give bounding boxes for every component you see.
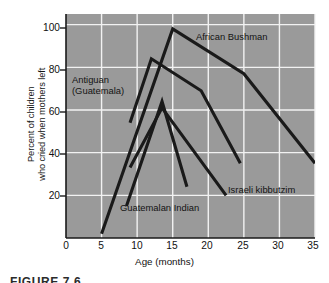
figure-container: Percent of children who cried when mothe…: [0, 0, 329, 283]
series-label-antiguan-line1: Antiguan: [72, 74, 109, 85]
series-label-israeli-kibbutzim: Israeli kibbutzim: [228, 184, 295, 195]
series-label-african-bushman: African Bushman: [196, 31, 267, 42]
chart-plot: African Bushman Antiguan (Guatemala) Isr…: [0, 0, 329, 283]
axis-tick-marks: [60, 28, 66, 196]
series-label-antiguan-line2: (Guatemala): [72, 85, 124, 96]
series-label-guatemalan-indian: Guatemalan Indian: [120, 202, 199, 213]
